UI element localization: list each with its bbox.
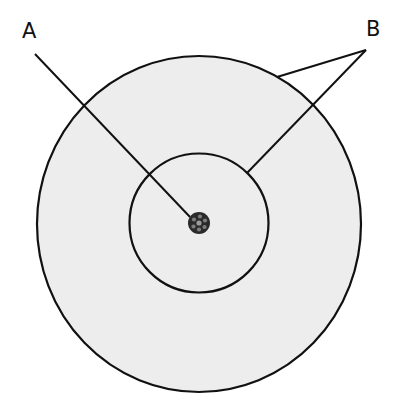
- center-nucleus: [188, 212, 210, 234]
- concentric-circle-diagram: A B: [0, 0, 400, 408]
- label-a: A: [22, 19, 37, 43]
- label-b: B: [366, 17, 380, 41]
